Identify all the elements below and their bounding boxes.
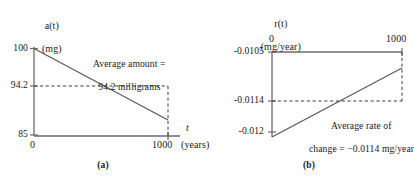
caption-a: (a): [0, 161, 206, 171]
annotation-a-line2: 94.2 milligrams: [98, 81, 160, 92]
y-tick-label-0-012-b: -0.012: [216, 126, 264, 136]
y-axis-units-a: (mg): [42, 43, 62, 54]
caption-b: (b): [206, 161, 412, 171]
annotation-b: Average rate of change = −0.0114 mg/year: [294, 108, 414, 167]
x-tick-label-1000-a: 1000: [152, 140, 172, 151]
annotation-b-line2: change = −0.0114 mg/year: [309, 143, 414, 154]
y-axis-units-b: (mg/year): [261, 41, 301, 52]
annotation-a-line1: Average amount =: [93, 58, 165, 69]
y-axis-title-a: a(t) (mg): [22, 8, 66, 67]
y-tick-label-0-0105-b: -0.0105: [216, 46, 264, 56]
y-tick-label-0-0114-b: -0.0114: [216, 95, 264, 105]
y-tick-label-85-a: 85: [0, 129, 28, 139]
annotation-b-line1: Average rate of: [331, 120, 391, 131]
y-axis-var-a: a(t): [45, 20, 59, 31]
y-axis-var-b: r(t): [274, 18, 287, 29]
panel-b: r(t) (mg/year) 0 1000 -0.0105 -0.0114 -0…: [206, 0, 412, 181]
x-tick-label-1000-b: 1000: [386, 34, 406, 45]
panel-a: a(t) (mg) 100 94.2 85 0 1000 t (years) A…: [0, 0, 206, 181]
y-tick-label-94-2-a: 94.2: [0, 80, 28, 90]
x-tick-label-0-a: 0: [30, 140, 35, 151]
x-axis-var-a: t: [186, 123, 189, 134]
annotation-a: Average amount = 94.2 milligrams: [62, 46, 182, 105]
y-tick-label-100-a: 100: [0, 43, 28, 53]
x-tick-label-0-b: 0: [269, 34, 274, 45]
